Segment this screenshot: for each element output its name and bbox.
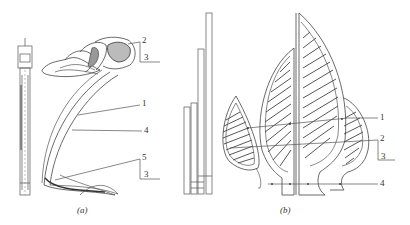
callout-label-1: 1 [142, 98, 147, 108]
panel-b [184, 13, 395, 195]
rod-stack [184, 13, 212, 194]
leaf-hatching [223, 32, 363, 166]
leaf-small-right [330, 98, 369, 190]
curved-stem [42, 70, 118, 195]
callout-label-5: 5 [142, 152, 147, 162]
callout-label-1: 1 [380, 112, 385, 122]
caption-b: (b) [280, 205, 291, 215]
callout-label-4: 4 [380, 178, 385, 188]
callout-label-2: 2 [142, 35, 147, 45]
leaf-cluster [42, 37, 135, 76]
panel-a [18, 37, 160, 195]
side-view-rod [18, 38, 32, 195]
callout-label-3b: 3 [144, 169, 149, 179]
diagram-canvas [0, 0, 410, 225]
callout-label-3: 3 [381, 151, 386, 161]
callout-label-3: 3 [144, 52, 149, 62]
callout-label-2: 2 [380, 133, 385, 143]
callout-label-4: 4 [144, 125, 149, 135]
leaf-center-tall [296, 13, 346, 195]
caption-a: (a) [77, 205, 88, 215]
